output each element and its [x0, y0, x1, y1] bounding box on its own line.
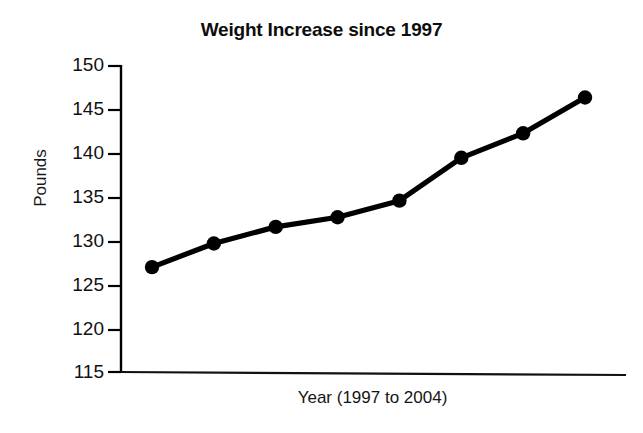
data-point-2001: [392, 193, 406, 207]
x-axis-line: [119, 372, 626, 375]
series-markers-pounds: [145, 90, 592, 274]
plot-area: [0, 0, 643, 433]
data-point-2004: [578, 90, 592, 104]
chart-figure: Weight Increase since 1997 Pounds 150 14…: [0, 0, 643, 433]
data-point-2003: [516, 126, 530, 140]
y-axis-ticks: [108, 66, 121, 372]
axis-group: [108, 65, 626, 375]
data-point-1998: [207, 236, 221, 250]
data-point-1999: [269, 220, 283, 234]
data-point-1997: [145, 260, 159, 274]
data-point-2000: [330, 210, 344, 224]
data-series-pounds: [145, 90, 592, 274]
data-point-2002: [454, 151, 468, 165]
